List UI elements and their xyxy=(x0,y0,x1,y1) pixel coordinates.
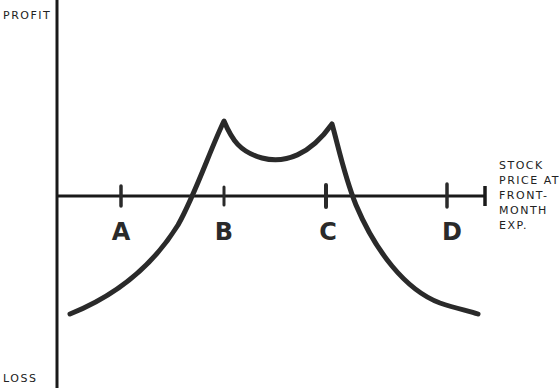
point-label-b: B xyxy=(215,218,233,246)
point-label-c: C xyxy=(319,218,337,246)
payoff-diagram: A B C D xyxy=(0,0,559,388)
point-label-a: A xyxy=(112,218,131,246)
payoff-curve xyxy=(70,121,478,314)
point-label-d: D xyxy=(442,218,462,246)
